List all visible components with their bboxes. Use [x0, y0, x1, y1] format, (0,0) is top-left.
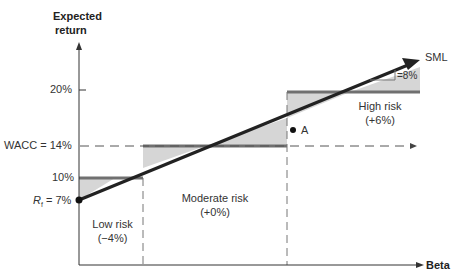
risk-free-point	[76, 197, 83, 204]
high-risk-shade-left	[287, 92, 350, 118]
moderate-risk-adjustment: (+0%)	[170, 206, 260, 219]
moderate-risk-shade-left	[143, 146, 205, 168]
point-a-label: A	[301, 124, 308, 137]
slope-label: =8%	[397, 69, 417, 82]
high-risk-adjustment: (+6%)	[345, 114, 415, 127]
x-axis-arrowhead	[416, 262, 424, 268]
tick-label-rf: Rf = 7%	[33, 194, 71, 211]
y-axis-title-line2: return	[55, 24, 87, 37]
moderate-risk-name: Moderate risk	[170, 192, 260, 205]
chart-canvas	[0, 0, 455, 274]
y-axis-arrowhead	[76, 42, 82, 50]
rf-symbol: R	[33, 194, 41, 206]
wacc-arrowhead	[410, 143, 417, 149]
rf-value: = 7%	[43, 194, 71, 206]
low-risk-adjustment: (−4%)	[85, 232, 140, 245]
y-axis-title-line1: Expected	[53, 10, 102, 23]
tick-label-wacc: WACC = 14%	[4, 139, 72, 152]
sml-label: SML	[425, 51, 448, 64]
tick-label-20: 20%	[50, 83, 72, 96]
high-risk-name: High risk	[345, 100, 415, 113]
x-axis-title: Beta	[426, 259, 450, 272]
sml-line	[79, 65, 408, 200]
low-risk-name: Low risk	[85, 218, 140, 231]
tick-label-10: 10%	[52, 171, 74, 184]
point-a	[290, 127, 296, 133]
